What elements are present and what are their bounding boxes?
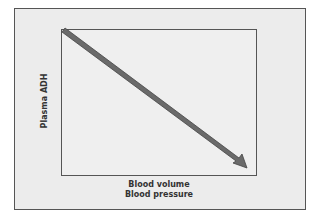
x-axis-label-line1: Blood volume (125, 180, 193, 190)
y-axis-label: Plasma ADH (40, 74, 49, 129)
x-axis-label-line2: Blood pressure (125, 190, 193, 200)
x-axis-label: Blood volume Blood pressure (125, 180, 193, 200)
